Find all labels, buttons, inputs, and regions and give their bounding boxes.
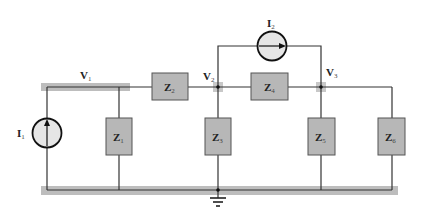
impedance-z2: Z2 (152, 73, 188, 100)
current-source-i1 (33, 119, 62, 148)
impedance-z6: Z6 (378, 118, 405, 155)
node-label-v2: V2 (203, 70, 215, 84)
node-label-v1: V1 (80, 69, 92, 83)
circuit-diagram: Z1 Z2 Z3 Z4 Z5 Z6 I1 I2 V1 V2 V3 (0, 0, 422, 221)
impedance-z5: Z5 (308, 118, 335, 155)
i2-label: I2 (267, 17, 275, 31)
impedance-z1: Z1 (106, 118, 132, 155)
node-label-v3: V3 (326, 66, 338, 80)
ground-icon (210, 198, 226, 206)
v3-junction-dot (319, 85, 323, 89)
impedance-z3: Z3 (205, 118, 231, 155)
i1-label: I1 (17, 127, 25, 141)
ground-junction-dot (216, 188, 220, 192)
v2-junction-dot (216, 85, 220, 89)
impedance-z4: Z4 (251, 73, 288, 100)
current-source-i2 (258, 32, 287, 61)
